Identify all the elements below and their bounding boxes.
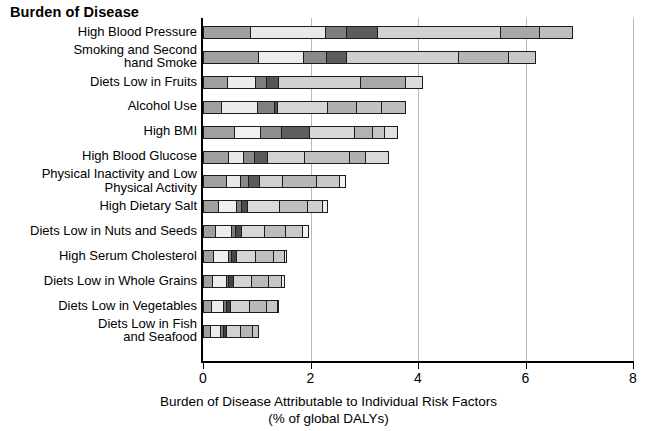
y-axis-label-2: Diets Low in Fruits (0, 75, 197, 89)
y-axis-label-line: Diets Low in Nuts and Seeds (0, 224, 197, 238)
x-tick-label-0: 0 (183, 370, 223, 386)
bar-segment (218, 200, 237, 213)
y-axis-label-10: Diets Low in Whole Grains (0, 274, 197, 288)
bar-segment (266, 76, 279, 89)
y-axis-label-line: Smoking and Second (0, 43, 197, 57)
bar-segment (233, 275, 252, 288)
gridline-x-8 (633, 18, 634, 361)
bar-segment (203, 51, 259, 64)
bar-segment (221, 101, 259, 114)
bar-segment (277, 300, 280, 313)
x-axis-title-line2: (% of global DALYs) (0, 410, 657, 427)
bar-11 (203, 300, 279, 313)
y-axis-label-4: High BMI (0, 124, 197, 138)
bar-segment (264, 225, 286, 238)
bar-5 (203, 151, 389, 164)
bar-segment (302, 225, 308, 238)
x-tick-mark-4 (418, 363, 419, 369)
bar-segment (227, 76, 255, 89)
y-axis-label-8: Diets Low in Nuts and Seeds (0, 224, 197, 238)
bar-segment (278, 76, 361, 89)
bar-segment (354, 126, 373, 139)
y-axis-label-0: High Blood Pressure (0, 25, 197, 39)
bar-segment (228, 151, 244, 164)
bar-segment (230, 300, 249, 313)
bar-12 (203, 325, 259, 338)
bar-segment (281, 126, 311, 139)
bar-segment (240, 325, 253, 338)
bar-segment (539, 26, 573, 39)
bar-segment (282, 175, 317, 188)
bar-8 (203, 225, 309, 238)
bar-segment (346, 26, 378, 39)
y-axis-label-line: Diets Low in Whole Grains (0, 274, 197, 288)
bar-segment (259, 175, 283, 188)
bar-segment (203, 225, 216, 238)
x-tick-mark-6 (526, 363, 527, 369)
bar-segment (339, 175, 346, 188)
y-axis-label-line: High BMI (0, 124, 197, 138)
y-axis-label-9: High Serum Cholesterol (0, 249, 197, 263)
bar-segment (258, 51, 304, 64)
x-axis-title-line1: Burden of Disease Attributable to Indivi… (0, 393, 657, 410)
bar-segment (325, 26, 348, 39)
x-tick-label-8: 8 (613, 370, 653, 386)
x-tick-label-4: 4 (398, 370, 438, 386)
y-axis-label-line: and Seafood (0, 330, 197, 344)
bar-segment (215, 225, 231, 238)
bar-segment (226, 325, 241, 338)
y-axis-label-line: Physical Inactivity and Low (0, 167, 197, 181)
bar-segment (377, 26, 501, 39)
plot-area: 02468 High Blood PressureSmoking and Sec… (0, 0, 657, 431)
bar-segment (203, 26, 251, 39)
x-tick-mark-8 (633, 363, 634, 369)
gridline-x-4 (418, 18, 419, 361)
y-axis-label-line: High Dietary Salt (0, 199, 197, 213)
bar-segment (203, 126, 235, 139)
y-axis-label-6: Physical Inactivity and LowPhysical Acti… (0, 167, 197, 194)
bar-segment (203, 200, 219, 213)
y-axis-label-3: Alcohol Use (0, 99, 197, 113)
bar-segment (346, 51, 459, 64)
bar-segment (203, 101, 222, 114)
bar-segment (267, 151, 305, 164)
bar-segment (316, 175, 340, 188)
y-axis-label-12: Diets Low in Fishand Seafood (0, 317, 197, 344)
bar-segment (365, 151, 389, 164)
bar-segment (247, 200, 279, 213)
bar-segment (260, 126, 282, 139)
y-axis-label-5: High Blood Glucose (0, 149, 197, 163)
bar-segment (384, 126, 397, 139)
bar-10 (203, 275, 285, 288)
bar-segment (212, 275, 227, 288)
bar-segment (281, 275, 284, 288)
bar-segment (250, 26, 325, 39)
bar-segment (203, 76, 228, 89)
y-axis-label-line: High Serum Cholesterol (0, 249, 197, 263)
bar-segment (326, 51, 346, 64)
bar-segment (360, 76, 406, 89)
x-tick-mark-2 (311, 363, 312, 369)
bar-segment (458, 51, 509, 64)
bar-segment (252, 325, 258, 338)
bar-segment (327, 101, 357, 114)
bar-segment (303, 51, 327, 64)
bar-segment (349, 151, 367, 164)
bar-segment (307, 200, 323, 213)
x-axis-title: Burden of Disease Attributable to Indivi… (0, 393, 657, 427)
bar-4 (203, 126, 398, 139)
bar-7 (203, 200, 328, 213)
x-tick-mark-0 (203, 363, 204, 369)
y-axis-label-line: Diets Low in Fish (0, 317, 197, 331)
bar-1 (203, 51, 536, 64)
bar-segment (249, 300, 268, 313)
bar-0 (203, 26, 573, 39)
bar-segment (234, 126, 261, 139)
y-axis-label-line: Physical Activity (0, 181, 197, 195)
bar-segment (268, 275, 282, 288)
bar-segment (285, 225, 304, 238)
y-axis-label-line: Diets Low in Fruits (0, 75, 197, 89)
bar-segment (236, 250, 256, 263)
bar-segment (279, 200, 309, 213)
y-axis-label-line: hand Smoke (0, 56, 197, 70)
